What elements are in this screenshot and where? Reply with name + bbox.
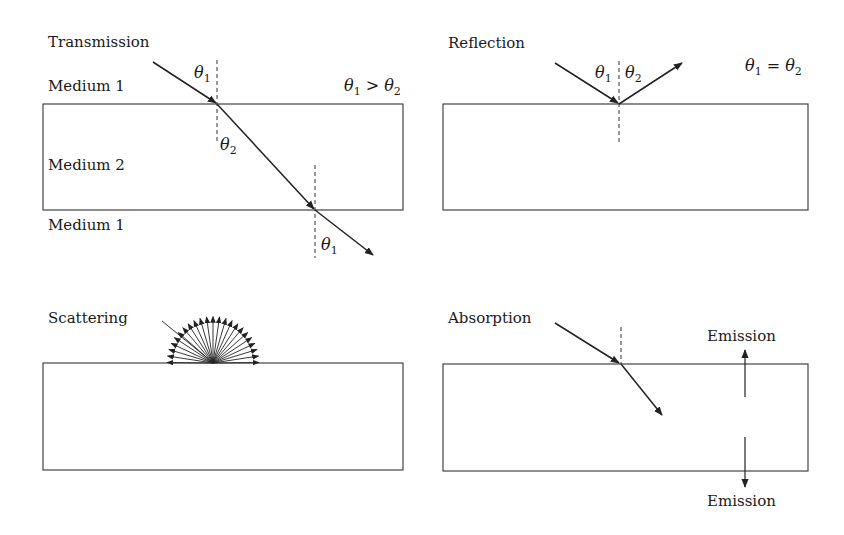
transmission-relation: θ1 > θ2 [344,76,401,98]
medium-1-top-label: Medium 1 [48,77,125,95]
transmission-title: Transmission [48,33,150,51]
theta-2-refracted: θ2 [220,135,237,157]
absorption-panel: Absorption Emission Emission [443,309,808,510]
theta-2-reflected: θ2 [625,63,642,85]
incident-ray [555,323,619,363]
medium-2-label: Medium 2 [48,156,125,174]
scattered-ray [169,350,213,364]
scattering-title: Scattering [48,309,128,327]
absorption-slab [443,364,808,471]
scattered-rays [167,317,259,364]
scattering-panel: Scattering [43,309,403,470]
scattered-ray [167,363,213,364]
reflection-slab [443,104,808,210]
absorption-title: Absorption [447,309,532,327]
absorbed-ray [621,364,662,415]
medium-1-bottom-label: Medium 1 [48,216,125,234]
scattered-ray [213,350,257,364]
optics-interactions-diagram: Transmission Medium 1 Medium 2 Medium 1 … [0,0,844,535]
emission-up-label: Emission [707,327,776,345]
emission-down-label: Emission [707,492,776,510]
transmission-panel: Transmission Medium 1 Medium 2 Medium 1 … [43,33,403,258]
scattering-slab [43,363,403,470]
scattered-ray [213,318,226,363]
theta-1-exit: θ1 [321,235,338,257]
reflection-relation: θ1 = θ2 [745,56,802,78]
scattered-ray [213,363,259,364]
reflection-title: Reflection [448,34,525,52]
theta-1-incident: θ1 [194,63,211,85]
reflection-panel: Reflection θ1 θ2 θ1 = θ2 [443,34,808,210]
theta-1-incident: θ1 [595,63,612,85]
scattered-ray [200,318,213,363]
